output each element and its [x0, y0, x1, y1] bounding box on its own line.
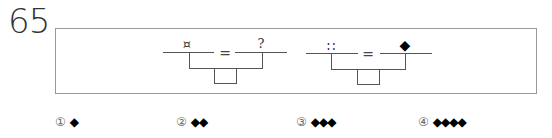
option-2-value: ◆◆	[191, 115, 207, 129]
diagram-frame	[55, 28, 537, 94]
option-2-marker: ②	[176, 115, 187, 129]
option-1-value: ◆	[70, 115, 78, 129]
option-4-value: ◆◆◆◆	[433, 115, 466, 129]
option-4-marker: ④	[418, 115, 429, 129]
option-3[interactable]: ③◆◆◆	[296, 116, 335, 128]
option-2[interactable]: ②◆◆	[176, 116, 207, 128]
eq2-bracket-left	[331, 53, 332, 69]
eq2-left-symbol: ∷	[327, 40, 335, 53]
eq1-bracket-left	[189, 52, 190, 68]
question-number: 65	[8, 4, 49, 38]
eq1-right-line	[235, 52, 287, 53]
eq2-answer-box	[357, 69, 380, 85]
eq1-equals-sign: =	[219, 46, 231, 60]
option-3-value: ◆◆◆	[311, 115, 336, 129]
eq2-right-line	[380, 53, 432, 54]
eq2-bracket-right	[405, 53, 406, 69]
eq2-equals-sign: =	[362, 47, 374, 61]
option-3-marker: ③	[296, 115, 307, 129]
eq2-right-symbol: ◆	[400, 38, 411, 52]
eq1-answer-box	[214, 68, 237, 84]
eq1-left-symbol: ¤	[183, 38, 191, 51]
eq1-right-symbol: ?	[258, 37, 265, 50]
option-1-marker: ①	[55, 115, 66, 129]
option-4[interactable]: ④◆◆◆◆	[418, 116, 466, 128]
option-1[interactable]: ①◆	[55, 116, 78, 128]
eq1-bracket-right	[262, 52, 263, 68]
